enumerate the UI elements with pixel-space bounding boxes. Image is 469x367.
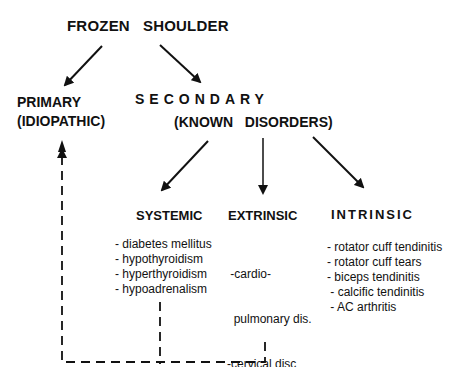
extrinsic-label: EXTRINSIC — [228, 208, 297, 223]
secondary-label: SECONDARY — [135, 91, 269, 107]
systemic-label: SYSTEMIC — [136, 208, 202, 223]
list-item: - rotator cuff tendinitis — [327, 240, 442, 255]
arrow-root-to-primary — [65, 46, 102, 85]
arrow-secondary-to-intrinsic — [313, 137, 363, 187]
list-item: - biceps tendinitis — [327, 270, 442, 285]
root-word-2: SHOULDER — [143, 17, 229, 34]
systemic-list: - diabetes mellitus - hypothyroidism - h… — [115, 237, 212, 297]
list-item: - rotator cuff tears — [327, 255, 442, 270]
list-item: -cervical disc — [227, 357, 312, 367]
list-item: - diabetes mellitus — [115, 237, 212, 252]
primary-label: PRIMARY — [17, 94, 81, 110]
arrow-secondary-to-systemic — [162, 141, 208, 190]
root-word-1: FROZEN — [67, 17, 130, 34]
list-item: - calcific tendinitis — [327, 285, 442, 300]
intrinsic-label: INTRINSIC — [331, 207, 414, 222]
intrinsic-list: - rotator cuff tendinitis - rotator cuff… — [327, 240, 442, 315]
list-item: - hyperthyroidism — [115, 267, 212, 282]
list-item: - hypothyroidism — [115, 252, 212, 267]
list-item: pulmonary dis. — [227, 312, 312, 327]
extrinsic-list: -cardio- pulmonary dis. -cervical disc -… — [227, 237, 312, 367]
arrow-root-to-secondary — [160, 45, 200, 82]
list-item: - AC arthritis — [327, 300, 442, 315]
list-item: - hypoadrenalism — [115, 282, 212, 297]
root-node: FROZEN SHOULDER — [67, 17, 229, 34]
up-arrow-head-icon — [58, 140, 66, 152]
secondary-sublabel: (KNOWN DISORDERS) — [174, 114, 333, 130]
primary-sublabel: (IDIOPATHIC) — [17, 113, 105, 129]
list-item: -cardio- — [227, 267, 312, 282]
